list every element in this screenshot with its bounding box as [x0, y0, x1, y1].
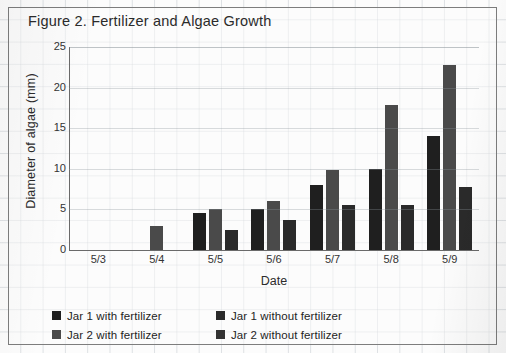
- x-tick-label: 5/6: [244, 253, 304, 265]
- chart-legend: Jar 1 with fertilizerJar 1 without ferti…: [52, 306, 452, 344]
- legend-label: Jar 1 with fertilizer: [67, 310, 162, 322]
- legend-item: Jar 2 with fertilizer: [52, 329, 216, 341]
- bar: [150, 226, 163, 250]
- gridline: [69, 88, 479, 89]
- x-tick-label: 5/3: [68, 253, 128, 265]
- x-tick-label: 5/9: [420, 253, 480, 265]
- bar: [225, 230, 238, 250]
- bar: [251, 209, 264, 250]
- bar: [310, 185, 323, 250]
- gridline: [69, 47, 479, 48]
- legend-item: Jar 1 with fertilizer: [52, 310, 216, 322]
- x-axis-ticks: 5/35/45/55/65/75/85/9: [69, 253, 479, 273]
- bar: [193, 213, 206, 250]
- bar-group: [362, 47, 421, 250]
- x-axis-label: Date: [69, 274, 479, 288]
- bars-area: [69, 47, 479, 250]
- gridline: [69, 128, 479, 129]
- legend-label: Jar 2 without fertilizer: [231, 329, 342, 341]
- bar-chart: 0510152025 Diameter of algae (mm) 5/35/4…: [0, 0, 506, 353]
- legend-swatch: [216, 330, 225, 339]
- legend-swatch: [52, 330, 61, 339]
- bar-group: [420, 47, 479, 250]
- x-tick-label: 5/5: [185, 253, 245, 265]
- bar-group: [128, 47, 187, 250]
- legend-item: Jar 2 without fertilizer: [216, 329, 416, 341]
- bar: [283, 220, 296, 250]
- gridline: [69, 209, 479, 210]
- scanned-page: Figure 2. Fertilizer and Algae Growth 05…: [0, 0, 506, 353]
- y-tick-label: 0: [30, 243, 66, 255]
- bar: [385, 105, 398, 250]
- bar: [209, 209, 222, 250]
- legend-swatch: [216, 311, 225, 320]
- bar-group: [245, 47, 304, 250]
- x-tick-label: 5/4: [127, 253, 187, 265]
- x-tick-label: 5/7: [303, 253, 363, 265]
- legend-item: Jar 1 without fertilizer: [216, 310, 416, 322]
- legend-label: Jar 2 with fertilizer: [67, 329, 162, 341]
- bar-group: [69, 47, 128, 250]
- bar: [459, 187, 472, 250]
- bar: [401, 205, 414, 250]
- bar-group: [186, 47, 245, 250]
- gridline: [69, 169, 479, 170]
- legend-label: Jar 1 without fertilizer: [231, 310, 342, 322]
- bar: [427, 136, 440, 250]
- y-axis-label: Diameter of algae (mm): [24, 46, 38, 236]
- bar-group: [303, 47, 362, 250]
- legend-swatch: [52, 311, 61, 320]
- x-tick-label: 5/8: [361, 253, 421, 265]
- bar: [342, 205, 355, 250]
- x-axis-line: [69, 250, 479, 251]
- bar: [443, 65, 456, 250]
